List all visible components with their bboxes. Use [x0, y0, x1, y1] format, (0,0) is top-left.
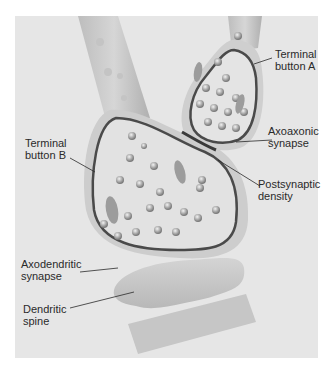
label-postsynaptic-density: Postsynaptic density [258, 178, 320, 202]
synapse-figure: Terminal button A Axoaxonic synapse Post… [0, 0, 335, 374]
label-terminal-button-b: Terminal button B [25, 137, 67, 161]
label-terminal-button-a: Terminal button A [275, 48, 317, 72]
label-axodendritic-synapse: Axodendritic synapse [21, 258, 82, 282]
label-dendritic-spine: Dendritic spine [23, 303, 66, 327]
label-axoaxonic-synapse: Axoaxonic synapse [268, 125, 319, 149]
